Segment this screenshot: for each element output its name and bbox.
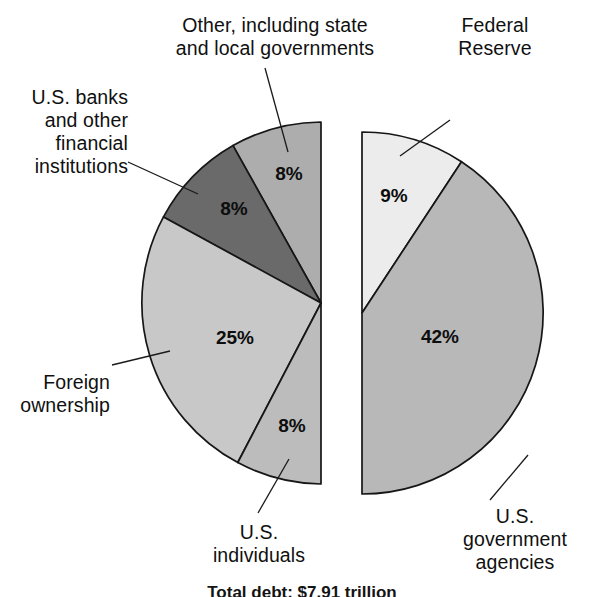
- label-us-individuals: U.S. individuals: [178, 521, 340, 567]
- leader-us-banks-financial: [128, 162, 198, 194]
- leader-us-government-agencies: [490, 455, 528, 500]
- label-other-state-local: Other, including state and local governm…: [140, 14, 410, 60]
- slice-value-other-state-local: 8%: [275, 163, 303, 184]
- label-us-government-agencies: U.S. government agencies: [440, 505, 590, 574]
- left-half-pie: 8% 8% 25% 8%: [142, 122, 321, 484]
- pie-chart-figure: 8% 8% 25% 8% 9% 42% Other, including sta…: [0, 0, 604, 597]
- slice-value-us-government-agencies: 42%: [421, 326, 459, 347]
- slice-value-federal-reserve: 9%: [380, 185, 408, 206]
- slice-value-foreign-ownership: 25%: [216, 327, 254, 348]
- label-foreign-ownership: Foreign ownership: [0, 371, 110, 417]
- slice-value-us-individuals: 8%: [278, 415, 306, 436]
- label-us-banks-financial: U.S. banks and other financial instituti…: [0, 86, 128, 178]
- right-half-pie: 9% 42%: [362, 132, 543, 494]
- chart-caption: Total debt: $7.91 trillion: [0, 583, 604, 597]
- label-federal-reserve: Federal Reserve: [430, 14, 560, 60]
- slice-value-us-banks-financial: 8%: [220, 198, 248, 219]
